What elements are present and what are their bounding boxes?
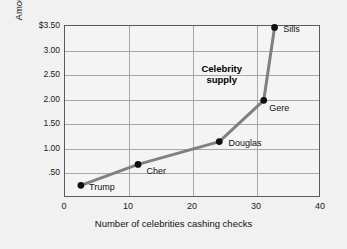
x-axis-title: Number of celebrities cashing checks	[0, 218, 347, 229]
x-tick-label-30: 30	[251, 202, 261, 211]
point-label-sills: Sills	[283, 25, 300, 34]
data-point-cher	[135, 161, 142, 168]
y-tick-label-2-50: 2.50	[43, 70, 60, 79]
celebrity-supply-chart: Amount of check $3.50 3.00 2.50 2.00 1.5…	[0, 0, 347, 249]
y-tick-label-3-00: 3.00	[43, 45, 60, 54]
point-label-douglas: Douglas	[229, 139, 262, 148]
x-tick-label-40: 40	[315, 202, 325, 211]
data-point-douglas	[216, 138, 223, 145]
y-tick-label-1-50: 1.50	[43, 119, 60, 128]
x-tick-label-0: 0	[61, 202, 66, 211]
point-label-trump: Trump	[89, 183, 115, 192]
x-tick-label-10: 10	[123, 202, 133, 211]
y-tick-label-1-00: 1.00	[43, 144, 60, 153]
plot-area: Trump Cher Douglas Gere Sills Celebrity …	[64, 25, 320, 197]
series-markers	[78, 24, 278, 189]
data-point-gere	[260, 97, 267, 104]
annotation-line-1: Celebrity	[201, 63, 242, 74]
point-label-gere: Gere	[269, 104, 289, 113]
annotation-celebrity-supply: Celebrity supply	[201, 63, 242, 85]
y-tick-label-3-50: $3.50	[39, 21, 60, 30]
data-point-trump	[78, 182, 85, 189]
series-line	[81, 27, 275, 185]
annotation-line-2: supply	[201, 74, 242, 85]
x-tick-label-20: 20	[187, 202, 197, 211]
y-axis-title: Amount of check	[13, 0, 24, 50]
y-tick-label-2-00: 2.00	[43, 94, 60, 103]
data-point-sills	[271, 24, 278, 31]
point-label-cher: Cher	[147, 167, 167, 176]
y-tick-label-0-50: .50	[48, 168, 60, 177]
